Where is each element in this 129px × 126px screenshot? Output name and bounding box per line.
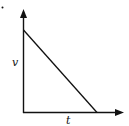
y-axis-label: v <box>12 56 19 69</box>
x-axis-label: t <box>66 114 71 126</box>
vt-graph: v t <box>0 0 129 126</box>
y-axis-arrow-icon <box>20 9 27 18</box>
velocity-line <box>24 30 98 113</box>
stray-dot <box>2 7 4 9</box>
x-axis-arrow-icon <box>115 109 124 116</box>
